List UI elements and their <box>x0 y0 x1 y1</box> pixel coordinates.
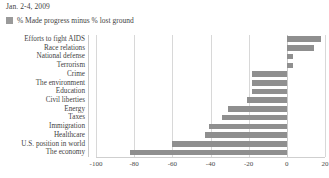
bar-row <box>96 35 325 44</box>
y-axis-label: The environment <box>0 79 85 88</box>
bar-row <box>96 96 325 105</box>
x-tick-label: 20 <box>322 160 329 168</box>
bar <box>252 80 286 86</box>
y-axis-label: Education <box>0 87 85 96</box>
bar <box>287 45 314 51</box>
plot-area <box>96 35 321 157</box>
bar-row <box>96 113 325 122</box>
bar <box>228 106 287 112</box>
bar-row <box>96 122 325 131</box>
bars-layer <box>96 35 325 157</box>
y-axis-label: The economy <box>0 148 85 157</box>
x-tick-label: -20 <box>244 160 253 168</box>
y-axis-label: Healthcare <box>0 131 85 140</box>
chart-legend: % Made progress minus % lost ground <box>6 16 134 25</box>
bar <box>287 63 293 69</box>
bar <box>222 115 287 121</box>
legend-label: % Made progress minus % lost ground <box>17 16 134 25</box>
y-axis-category-labels: Efforts to fight AIDSRace relationsNatio… <box>0 35 85 157</box>
x-axis-tick-labels: -100-80-60-40-20020 <box>96 160 325 172</box>
y-axis-label: Efforts to fight AIDS <box>0 35 85 44</box>
y-axis-label: Terrorism <box>0 61 85 70</box>
bar <box>172 141 287 147</box>
y-axis-label: Taxes <box>0 113 85 122</box>
bar <box>252 89 286 95</box>
bar-row <box>96 70 325 79</box>
bar-row <box>96 131 325 140</box>
bar <box>205 132 287 138</box>
chart-title: Jan. 2-4, 2009 <box>6 2 50 11</box>
x-tick-label: -40 <box>206 160 215 168</box>
x-tick-label: 0 <box>285 160 289 168</box>
bar <box>287 36 321 42</box>
y-axis-label: Crime <box>0 70 85 79</box>
bar-row <box>96 52 325 61</box>
bar <box>287 54 293 60</box>
gridline <box>325 35 326 157</box>
bar-row <box>96 61 325 70</box>
y-axis-label: Race relations <box>0 44 85 53</box>
x-tick-label: -80 <box>129 160 138 168</box>
bar-row <box>96 148 325 157</box>
bar-row <box>96 79 325 88</box>
y-axis-spine <box>88 35 89 157</box>
legend-swatch-icon <box>6 17 13 24</box>
y-axis-label: U.S. position in world <box>0 140 85 149</box>
bar-row <box>96 87 325 96</box>
y-axis-label: Immigration <box>0 122 85 131</box>
y-axis-label: National defense <box>0 52 85 61</box>
bar <box>209 124 287 130</box>
x-tick-label: -100 <box>90 160 103 168</box>
bar <box>130 150 286 156</box>
x-axis-line <box>96 157 325 158</box>
bar <box>252 71 286 77</box>
y-axis-label: Civil liberties <box>0 96 85 105</box>
x-tick-label: -60 <box>168 160 177 168</box>
bar <box>247 97 287 103</box>
y-axis-label: Energy <box>0 105 85 114</box>
bar-row <box>96 44 325 53</box>
bar-row <box>96 140 325 149</box>
bar-row <box>96 105 325 114</box>
